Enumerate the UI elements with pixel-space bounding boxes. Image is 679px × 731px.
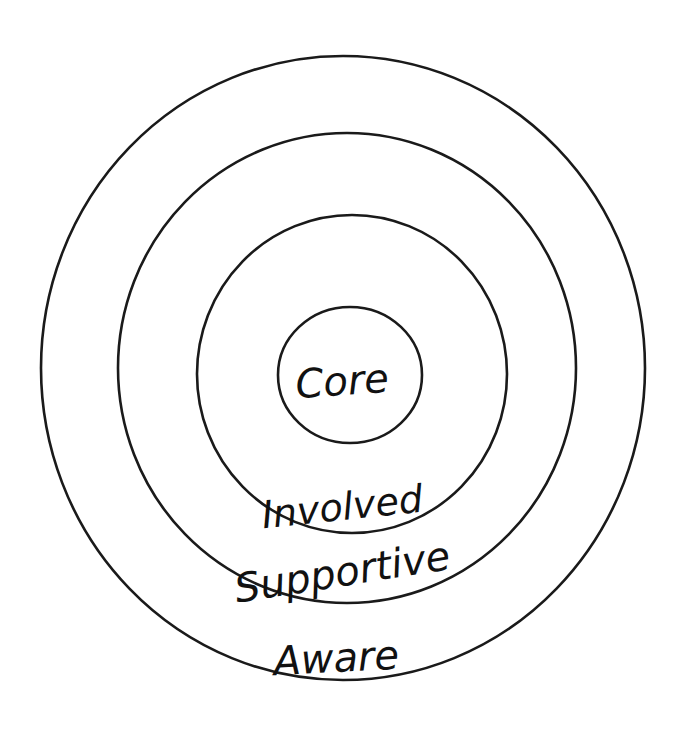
label-aware: Aware [269, 632, 400, 685]
concentric-circles-diagram: Core Involved Supportive Aware [0, 0, 679, 731]
label-involved: Involved [260, 477, 426, 538]
label-supportive: Supportive [231, 532, 453, 611]
label-core: Core [294, 355, 390, 407]
